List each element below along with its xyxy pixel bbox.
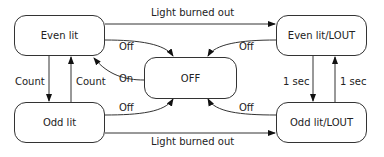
label-light-burned-out-bottom: Light burned out: [151, 136, 234, 147]
state-odd-lit-lout: Odd lit/LOUT: [276, 102, 367, 143]
state-label: Odd lit/LOUT: [290, 117, 353, 128]
state-label: Even lit: [41, 30, 78, 41]
state-even-lit: Even lit: [14, 15, 105, 56]
state-label: Even lit/LOUT: [288, 30, 355, 41]
state-label: OFF: [181, 73, 200, 84]
state-even-lit-lout: Even lit/LOUT: [276, 15, 367, 56]
label-odd-off: Off: [119, 102, 134, 113]
label-count-down: Count: [15, 76, 45, 87]
label-even-lout-off: Off: [239, 41, 254, 52]
label-odd-lout-off: Off: [239, 102, 254, 113]
label-count-up: Count: [76, 76, 106, 87]
state-odd-lit: Odd lit: [14, 102, 105, 143]
label-1sec-down: 1 sec: [283, 76, 309, 87]
label-on: On: [119, 73, 133, 84]
label-1sec-up: 1 sec: [340, 76, 366, 87]
state-off: OFF: [144, 57, 237, 99]
state-label: Odd lit: [43, 117, 76, 128]
label-even-off: Off: [119, 41, 134, 52]
label-light-burned-out-top: Light burned out: [151, 7, 234, 18]
